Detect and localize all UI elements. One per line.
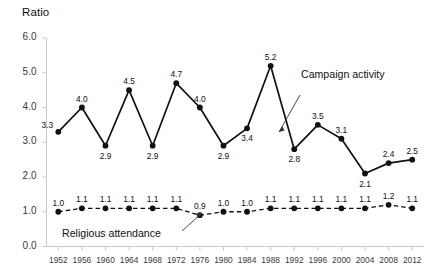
data-point-label: 2.5: [399, 146, 425, 156]
data-point: [173, 205, 179, 211]
data-point: [244, 209, 250, 215]
data-point-label: 3.5: [305, 111, 331, 121]
data-point-label: 4.0: [69, 94, 95, 104]
series-annotation-religious-attendance: Religious attendance: [62, 227, 161, 239]
y-axis-tick-label: 4.0: [11, 101, 37, 112]
data-point: [268, 63, 274, 69]
data-point: [103, 205, 109, 211]
data-point-label: 1.0: [210, 198, 236, 208]
data-point: [221, 143, 227, 149]
data-point: [339, 205, 345, 211]
x-axis-tick-label: 2012: [397, 255, 427, 265]
data-point: [409, 157, 415, 163]
y-axis-tick-label: 3.0: [11, 135, 37, 146]
data-point-label: 4.7: [163, 69, 189, 79]
data-point: [409, 205, 415, 211]
data-point: [150, 205, 156, 211]
data-point-label: 2.9: [210, 151, 236, 161]
data-point-label: 4.0: [187, 94, 213, 104]
y-axis-tick-label: 6.0: [11, 31, 37, 42]
data-point: [386, 160, 392, 166]
x-axis-ticks: [58, 247, 412, 251]
data-point-label: 1.1: [258, 194, 284, 204]
data-point-label: 1.1: [399, 194, 425, 204]
data-point: [315, 205, 321, 211]
data-point: [244, 125, 250, 131]
data-point-label: 1.1: [116, 194, 142, 204]
data-point-label: 5.2: [258, 52, 284, 62]
data-point: [315, 122, 321, 128]
data-point-label: 1.0: [234, 198, 260, 208]
data-point-label: 1.1: [163, 194, 189, 204]
series-annotation-campaign-activity: Campaign activity: [301, 68, 385, 80]
data-point-label: 3.3: [34, 120, 60, 130]
data-point: [126, 205, 132, 211]
data-point: [103, 143, 109, 149]
y-axis-tick-label: 1.0: [11, 205, 37, 216]
data-point-label: 1.1: [281, 194, 307, 204]
chart-container: Ratio 0.01.02.03.04.05.06.0 195219561960…: [0, 0, 435, 276]
y-axis-tick-label: 0.0: [11, 240, 37, 251]
y-axis-ticks: [43, 38, 47, 247]
data-point: [79, 205, 85, 211]
data-point: [268, 205, 274, 211]
data-point-label: 4.5: [116, 76, 142, 86]
y-axis-tick-label: 5.0: [11, 66, 37, 77]
y-axis-tick-label: 2.0: [11, 170, 37, 181]
data-point: [362, 205, 368, 211]
data-point-label: 2.4: [376, 149, 402, 159]
data-point-label: 1.1: [140, 194, 166, 204]
data-point: [291, 146, 297, 152]
data-point: [386, 202, 392, 208]
campaign-activity-leader-arrow: [279, 126, 285, 132]
data-point: [339, 136, 345, 142]
data-point-label: 2.8: [281, 154, 307, 164]
data-point-label: 1.1: [305, 194, 331, 204]
data-point-label: 1.2: [376, 191, 402, 201]
data-point-label: 1.1: [328, 194, 354, 204]
data-point-label: 3.4: [234, 133, 260, 143]
data-point: [362, 171, 368, 177]
data-point-label: 2.1: [352, 179, 378, 189]
data-point: [173, 80, 179, 86]
data-point: [79, 105, 85, 111]
data-point: [126, 87, 132, 93]
data-point-label: 0.9: [187, 201, 213, 211]
data-point-label: 1.0: [45, 198, 71, 208]
data-point: [291, 205, 297, 211]
data-point-label: 2.9: [92, 151, 118, 161]
data-point: [221, 209, 227, 215]
data-point-label: 1.1: [352, 194, 378, 204]
data-point: [55, 209, 61, 215]
data-point: [150, 143, 156, 149]
data-point-label: 1.1: [69, 194, 95, 204]
data-point-label: 1.1: [92, 194, 118, 204]
data-point: [197, 105, 203, 111]
data-point-label: 2.9: [140, 151, 166, 161]
data-point-label: 3.1: [328, 125, 354, 135]
